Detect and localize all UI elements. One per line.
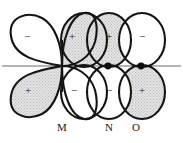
node-dot-o <box>138 63 145 70</box>
lobe-m-left-lower <box>11 66 62 117</box>
node-dot-n <box>105 63 112 70</box>
orbital-diagram-canvas <box>0 0 183 143</box>
lobe-m-left-upper <box>11 15 62 66</box>
atom-label-o: O <box>132 122 140 133</box>
orbital-diagram-figure: − + + − + − − + M N O <box>0 0 183 143</box>
atom-label-m: M <box>57 122 67 133</box>
atom-label-n: N <box>105 122 113 133</box>
